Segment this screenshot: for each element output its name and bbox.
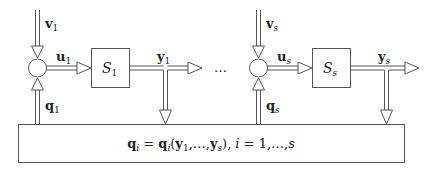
ys-output-arrow (351, 62, 420, 124)
ellipsis: … (214, 60, 227, 75)
v1-input-arrow (32, 10, 44, 58)
ys-label: ys (377, 49, 391, 66)
y1-label: y1 (156, 49, 170, 66)
q1-label: q1 (45, 98, 60, 115)
us-label: us (277, 49, 291, 66)
subsystem-1: v1 q1 u1 S1 (29, 10, 203, 124)
summing-junction-s (250, 59, 268, 77)
subsystem-s: vs qs us Ss (250, 10, 420, 124)
interconnection-equation: qi = qi(y1,…,ys),i = 1,…,s (127, 136, 295, 153)
y1-output-arrow (130, 62, 203, 124)
summing-junction-1 (29, 59, 47, 77)
vs-label: vs (265, 16, 279, 33)
v1-label: v1 (44, 16, 58, 33)
u1-label: u1 (56, 49, 71, 66)
q1-feedback-arrow (32, 78, 44, 124)
interconnected-systems-diagram: v1 q1 u1 S1 (0, 0, 440, 170)
qs-feedback-arrow (253, 78, 265, 124)
qs-label: qs (266, 98, 280, 115)
vs-input-arrow (253, 10, 265, 58)
